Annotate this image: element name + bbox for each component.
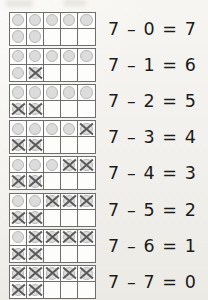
counter-circle-icon <box>46 50 58 62</box>
ten-frame-cell[interactable] <box>44 137 61 153</box>
ten-frame-cell[interactable] <box>44 157 61 173</box>
counter-circle-icon <box>12 195 24 207</box>
ten-frame-cell[interactable] <box>10 266 27 282</box>
ten-frame-cell[interactable] <box>27 13 44 29</box>
subtraction-row-list: 7 – 0 = 77 – 1 = 67 – 2 = 57 – 3 = 47 – … <box>0 0 208 300</box>
subtraction-row: 7 – 7 = 0 <box>0 265 208 298</box>
ten-frame-cell[interactable] <box>10 230 27 246</box>
ten-frame-cell[interactable] <box>27 282 44 298</box>
ten-frame-cell[interactable] <box>61 101 78 117</box>
ten-frame <box>9 156 96 190</box>
ten-frame-cell[interactable] <box>78 282 95 298</box>
ten-frame-cell[interactable] <box>44 194 61 210</box>
ten-frame-cell[interactable] <box>27 210 44 226</box>
ten-frame-cell[interactable] <box>78 121 95 137</box>
counter-circle-icon <box>46 159 58 171</box>
ten-frame-cell[interactable] <box>78 13 95 29</box>
ten-frame-cell[interactable] <box>61 246 78 262</box>
ten-frame-cell[interactable] <box>44 246 61 262</box>
ten-frame-cell[interactable] <box>10 101 27 117</box>
ten-frame-cell[interactable] <box>61 121 78 137</box>
ten-frame-cell[interactable] <box>61 194 78 210</box>
ten-frame-cell[interactable] <box>78 246 95 262</box>
ten-frame-cell[interactable] <box>27 137 44 153</box>
ten-frame-cell[interactable] <box>78 137 95 153</box>
ten-frame-cell[interactable] <box>10 13 27 29</box>
ten-frame-cell[interactable] <box>61 49 78 65</box>
ten-frame-cell[interactable] <box>78 266 95 282</box>
ten-frame-bottom-row <box>10 246 95 262</box>
ten-frame-cell[interactable] <box>27 85 44 101</box>
ten-frame-cell[interactable] <box>61 85 78 101</box>
ten-frame-cell[interactable] <box>27 266 44 282</box>
ten-frame-cell[interactable] <box>61 266 78 282</box>
ten-frame-cell[interactable] <box>10 210 27 226</box>
ten-frame-cell[interactable] <box>27 49 44 65</box>
ten-frame-cell[interactable] <box>44 65 61 81</box>
ten-frame-cell[interactable] <box>27 121 44 137</box>
ten-frame-cell[interactable] <box>10 246 27 262</box>
ten-frame-cell[interactable] <box>44 29 61 45</box>
counter-circle-icon <box>12 67 24 79</box>
ten-frame-cell[interactable] <box>44 85 61 101</box>
ten-frame-cell[interactable] <box>44 13 61 29</box>
ten-frame-cell[interactable] <box>61 137 78 153</box>
subtraction-equation: 7 – 2 = 5 <box>108 91 197 111</box>
ten-frame-cell[interactable] <box>44 282 61 298</box>
ten-frame-cell[interactable] <box>61 65 78 81</box>
ten-frame-cell[interactable] <box>27 101 44 117</box>
ten-frame-cell[interactable] <box>10 65 27 81</box>
ten-frame-cell[interactable] <box>27 157 44 173</box>
ten-frame-cell[interactable] <box>44 121 61 137</box>
counter-circle-icon <box>12 14 24 26</box>
ten-frame-cell[interactable] <box>78 230 95 246</box>
ten-frame-cell[interactable] <box>44 101 61 117</box>
ten-frame-cell[interactable] <box>44 230 61 246</box>
counter-circle-icon <box>80 14 92 26</box>
ten-frame-cell[interactable] <box>78 210 95 226</box>
ten-frame-top-row <box>10 85 95 101</box>
counter-circle-icon <box>12 231 24 243</box>
ten-frame-cell[interactable] <box>27 194 44 210</box>
ten-frame-cell[interactable] <box>61 29 78 45</box>
cross-out-x-icon <box>61 230 77 245</box>
ten-frame-cell[interactable] <box>10 157 27 173</box>
ten-frame-cell[interactable] <box>10 85 27 101</box>
ten-frame-cell[interactable] <box>61 282 78 298</box>
ten-frame-cell[interactable] <box>44 49 61 65</box>
ten-frame-cell[interactable] <box>27 246 44 262</box>
subtraction-row: 7 – 3 = 4 <box>0 121 208 154</box>
ten-frame-cell[interactable] <box>61 230 78 246</box>
ten-frame-cell[interactable] <box>10 173 27 189</box>
ten-frame-cell[interactable] <box>27 230 44 246</box>
ten-frame-cell[interactable] <box>78 85 95 101</box>
ten-frame-cell[interactable] <box>78 194 95 210</box>
ten-frame-cell[interactable] <box>44 266 61 282</box>
ten-frame-cell[interactable] <box>10 29 27 45</box>
ten-frame-cell[interactable] <box>78 173 95 189</box>
ten-frame-cell[interactable] <box>10 121 27 137</box>
ten-frame-cell[interactable] <box>61 173 78 189</box>
cross-out-x-icon <box>10 210 26 226</box>
ten-frame-cell[interactable] <box>10 49 27 65</box>
ten-frame-cell[interactable] <box>61 157 78 173</box>
worksheet-page: 7 – 0 = 77 – 1 = 67 – 2 = 57 – 3 = 47 – … <box>0 0 208 300</box>
counter-circle-icon <box>46 86 58 98</box>
ten-frame-cell[interactable] <box>78 29 95 45</box>
ten-frame-cell[interactable] <box>10 194 27 210</box>
ten-frame-cell[interactable] <box>44 210 61 226</box>
ten-frame-cell[interactable] <box>78 101 95 117</box>
ten-frame-cell[interactable] <box>44 173 61 189</box>
ten-frame-cell[interactable] <box>27 173 44 189</box>
ten-frame-cell[interactable] <box>78 157 95 173</box>
ten-frame-cell[interactable] <box>78 65 95 81</box>
cross-out-x-icon <box>61 194 77 209</box>
ten-frame-cell[interactable] <box>27 29 44 45</box>
ten-frame-cell[interactable] <box>10 137 27 153</box>
ten-frame-cell[interactable] <box>78 49 95 65</box>
ten-frame-cell[interactable] <box>10 282 27 298</box>
ten-frame-cell[interactable] <box>61 13 78 29</box>
ten-frame-cell[interactable] <box>61 210 78 226</box>
ten-frame-cell[interactable] <box>27 65 44 81</box>
ten-frame <box>9 265 96 299</box>
